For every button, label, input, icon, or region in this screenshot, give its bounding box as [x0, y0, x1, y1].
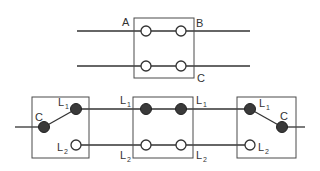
middle-label-l1-left-sub: 1	[127, 101, 131, 108]
middle-label-l2-right: L	[196, 149, 202, 161]
middle-label-l1-left: L	[120, 94, 126, 106]
middle-label-l1-right: L	[196, 94, 202, 106]
label-b: B	[196, 17, 203, 29]
left-label-l2-sub: 2	[64, 148, 68, 155]
right-label-l1: L	[259, 97, 265, 109]
right-label-c: C	[280, 110, 288, 122]
middle-label-l1-right-sub: 1	[203, 101, 207, 108]
middle-label-l2-left: L	[120, 149, 126, 161]
right-label-l2-sub: 2	[265, 148, 269, 155]
terminal-filled-icon	[71, 104, 82, 115]
right-label-l1-sub: 1	[266, 104, 270, 111]
terminal-open-icon	[141, 140, 151, 150]
left-label-l1-sub: 1	[65, 103, 69, 110]
terminal-open-icon	[71, 140, 81, 150]
terminal-filled-icon	[245, 104, 256, 115]
label-c: C	[197, 72, 205, 84]
terminal-open-icon	[141, 61, 151, 71]
middle-label-l2-left-sub: 2	[127, 156, 131, 163]
bottom-circuit-group: C L 1 L 2 L 1 L 1 L 2 L 2 L 1 C L 2	[15, 94, 305, 163]
terminal-open-icon	[176, 26, 186, 36]
terminal-open-icon	[176, 140, 186, 150]
switch-wiring-diagram: A B C C L 1 L 2 L	[0, 0, 320, 171]
label-a: A	[122, 16, 130, 28]
terminal-open-icon	[176, 61, 186, 71]
left-label-c: C	[35, 111, 43, 123]
left-label-l2: L	[57, 141, 63, 153]
terminal-open-icon	[141, 26, 151, 36]
right-label-l2: L	[258, 141, 264, 153]
top-switch-group: A B C	[77, 16, 250, 84]
middle-label-l2-right-sub: 2	[203, 156, 207, 163]
terminal-filled-icon	[141, 104, 152, 115]
left-label-l1: L	[58, 96, 64, 108]
terminal-filled-icon	[176, 104, 187, 115]
terminal-open-icon	[245, 140, 255, 150]
terminal-filled-icon	[277, 122, 288, 133]
terminal-filled-icon	[39, 122, 50, 133]
